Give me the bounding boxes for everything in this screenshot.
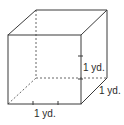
front-face <box>8 35 81 104</box>
hidden-bottom-left-depth-edge <box>8 78 36 104</box>
top-left-depth-edge <box>8 10 36 35</box>
depth-label: 1 yd. <box>99 86 121 96</box>
tick-marks <box>33 56 83 105</box>
cube-drawing <box>0 0 124 125</box>
width-label: 1 yd. <box>34 109 56 119</box>
cube-diagram: 1 yd. 1 yd. 1 yd. <box>0 0 124 125</box>
height-label: 1 yd. <box>83 63 105 73</box>
top-right-depth-edge <box>81 10 107 35</box>
